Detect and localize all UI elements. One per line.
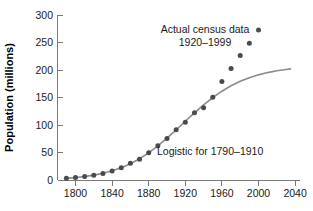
y-tick-labels: 300 250 200 150 100 50 0 [35,9,53,186]
x-tick-label-1840: 1840 [100,187,124,199]
data-point [110,169,115,174]
data-point [229,66,234,71]
annotation-census-line2: 1920–1999 [179,36,232,48]
data-point [119,165,124,170]
data-point [128,161,133,166]
data-point [238,53,243,58]
x-tick-label-1920: 1920 [174,187,198,199]
data-point [247,41,252,46]
data-point [91,173,96,178]
data-point [174,127,179,132]
x-tick-label-1880: 1880 [137,187,161,199]
x-tick-label-1800: 1800 [64,187,88,199]
chart-canvas: 300 250 200 150 100 50 0 1800 1840 1880 … [0,0,313,211]
y-tick-label-200: 200 [35,64,53,76]
x-tick-label-1960: 1960 [210,187,234,199]
annotation-actual-census: Actual census data 1920–1999 [161,23,250,48]
annotation-census-line1: Actual census data [161,23,250,35]
data-point [64,176,69,181]
y-tick-label-50: 50 [41,146,53,158]
data-point [146,150,151,155]
data-point [210,95,215,100]
y-tick-label-0: 0 [47,174,53,186]
data-point [100,171,105,176]
annotation-logistic: Logistic for 1790–1910 [157,145,263,157]
x-tick-label-2040: 2040 [283,187,307,199]
data-point [137,157,142,162]
x-tick-marks [76,181,296,186]
y-tick-label-250: 250 [35,36,53,48]
data-point [165,136,170,141]
x-tick-label-2000: 2000 [247,187,271,199]
data-point [183,120,188,125]
data-point [256,28,261,33]
data-point [219,79,224,84]
y-axis-title: Population (millions) [3,43,15,152]
y-tick-label-300: 300 [35,9,53,21]
data-point [192,110,197,115]
y-tick-marks [58,16,63,181]
census-data-points [64,28,261,181]
logistic-curve [66,69,290,178]
data-point [82,174,87,179]
x-tick-labels: 1800 1840 1880 1920 1960 2000 2040 [64,187,307,199]
population-logistic-chart: 300 250 200 150 100 50 0 1800 1840 1880 … [0,0,313,211]
y-tick-label-150: 150 [35,91,53,103]
y-tick-label-100: 100 [35,119,53,131]
data-point [201,105,206,110]
data-point [73,175,78,180]
